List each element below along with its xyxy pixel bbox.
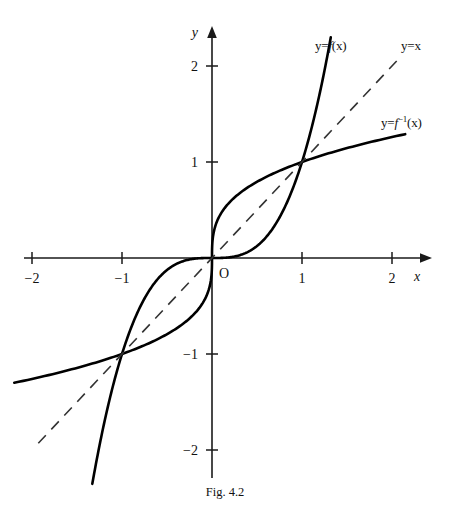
x-tick-label-1: 1 xyxy=(299,271,306,286)
y-tick-label-minus2: −2 xyxy=(183,443,198,458)
x-tick-label-2: 2 xyxy=(389,271,396,286)
figure-container: −2 −1 1 2 2 1 −1 −2 O x y y=f(x) y=x y=f… xyxy=(0,0,450,509)
x-tick-label-minus1: −1 xyxy=(115,271,130,286)
y-tick-label-1: 1 xyxy=(191,155,198,170)
curve-label-f-inverse: y=f−1(x) xyxy=(381,115,422,131)
y-tick-label-2: 2 xyxy=(191,59,198,74)
x-tick-label-minus2: −2 xyxy=(25,271,40,286)
figure-caption: Fig. 4.2 xyxy=(0,485,450,500)
x-axis-label: x xyxy=(413,269,421,284)
y-axis-label: y xyxy=(190,25,199,40)
curve-label-identity: y=x xyxy=(401,38,421,54)
axis-text-layer: −2 −1 1 2 2 1 −1 −2 O x y xyxy=(0,0,450,509)
y-tick-label-minus1: −1 xyxy=(183,347,198,362)
origin-label: O xyxy=(219,266,229,281)
curve-label-f-of-x: y=f(x) xyxy=(315,38,346,54)
